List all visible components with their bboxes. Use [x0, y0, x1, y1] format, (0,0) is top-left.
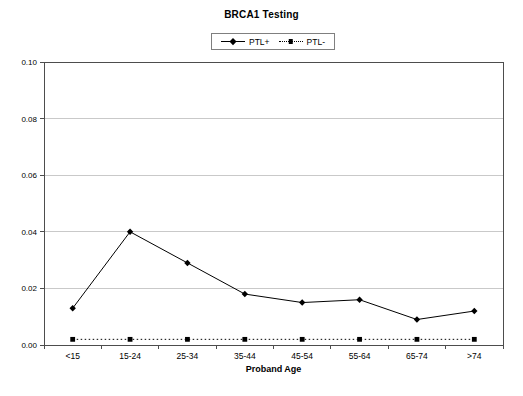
- x-tick-label: 15-24: [119, 351, 141, 361]
- square-marker-icon: [185, 337, 190, 342]
- square-marker-icon: [242, 337, 247, 342]
- x-tick-label: 65-74: [406, 351, 428, 361]
- square-marker-icon: [415, 337, 420, 342]
- y-tick-label: 0.10: [21, 58, 37, 67]
- square-marker-icon: [70, 337, 75, 342]
- y-tick-label: 0.02: [21, 284, 37, 293]
- x-tick-label: 35-44: [234, 351, 256, 361]
- y-tick-label: 0.08: [21, 115, 37, 124]
- x-axis-title: Proband Age: [44, 364, 503, 374]
- square-marker-icon: [357, 337, 362, 342]
- y-tick-label: 0.00: [21, 341, 37, 350]
- series-line-ptl-plus: [73, 232, 475, 320]
- y-tick-label: 0.04: [21, 228, 37, 237]
- square-marker-icon: [300, 337, 305, 342]
- x-tick-label: <15: [65, 351, 80, 361]
- diamond-marker-icon: [242, 291, 248, 297]
- x-tick-label: 25-34: [177, 351, 199, 361]
- x-tick-label: 45-54: [291, 351, 313, 361]
- square-marker-icon: [128, 337, 133, 342]
- y-tick-label: 0.06: [21, 171, 37, 180]
- diamond-marker-icon: [471, 308, 477, 314]
- diamond-marker-icon: [184, 260, 190, 266]
- x-tick-label: >74: [467, 351, 482, 361]
- square-marker-icon: [472, 337, 477, 342]
- plot-area: 0.000.020.040.060.080.10<1515-2425-3435-…: [0, 0, 523, 396]
- diamond-marker-icon: [414, 316, 420, 322]
- diamond-marker-icon: [356, 297, 362, 303]
- chart-canvas: BRCA1 Testing PTL+ PTL- 0.000.020.040.06…: [0, 0, 523, 396]
- diamond-marker-icon: [299, 299, 305, 305]
- x-tick-label: 55-64: [349, 351, 371, 361]
- plot-border: [44, 62, 503, 345]
